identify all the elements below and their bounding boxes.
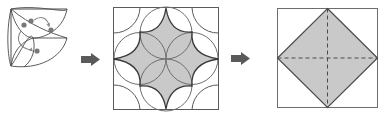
rotation-arrow-left [18,31,31,50]
step-2-eight-point-star-square [114,7,219,111]
transition-arrow-1-shape [81,53,100,66]
rotation-arrow-top [34,18,49,25]
transition-arrow-1 [81,53,100,66]
marker-dot-2 [28,18,33,23]
step-1-trefoil-quadrant [8,8,67,67]
figure-sequence [0,0,384,118]
diagram-canvas [0,0,384,118]
marker-dot-1 [21,22,26,27]
marker-dot-3 [48,27,53,32]
petal-arc-2a [11,38,33,66]
transition-arrow-2-shape [231,52,250,65]
transition-arrow-2 [231,52,250,65]
marker-dot-4 [34,48,39,53]
petal-arc-1b [33,9,67,38]
step-3-inscribed-diamond-square [278,9,378,108]
